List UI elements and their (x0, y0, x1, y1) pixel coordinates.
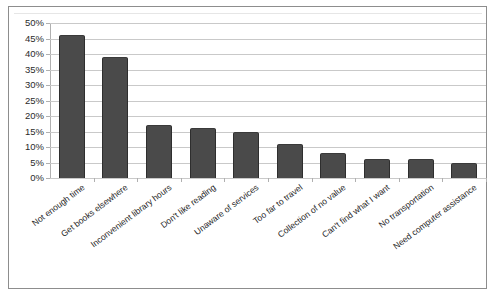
y-axis-tick-label: 0% (30, 173, 44, 183)
x-tick-mark (442, 178, 443, 182)
plot-area: 50%45%40%35%30%25%20%15%10%5%0% (50, 23, 486, 178)
gridline (50, 23, 486, 24)
gridline (50, 54, 486, 55)
y-axis-tick-label: 5% (30, 158, 44, 168)
y-axis-tick-label: 40% (25, 49, 44, 59)
y-tick-mark (46, 178, 50, 179)
chart-frame: 50%45%40%35%30%25%20%15%10%5%0% Not enou… (8, 6, 487, 289)
y-axis-tick-label: 25% (25, 96, 44, 106)
y-tick-mark (46, 163, 50, 164)
gridline (50, 39, 486, 40)
category-label: Inconvenient library hours (89, 183, 173, 249)
y-axis-tick-label: 10% (25, 142, 44, 152)
x-tick-mark (312, 178, 313, 182)
y-axis-tick-label: 15% (25, 127, 44, 137)
frame-inner-rule (14, 13, 482, 14)
y-axis-tick-label: 45% (25, 34, 44, 44)
bar (320, 153, 346, 178)
bar (102, 57, 128, 178)
y-axis-tick-label: 50% (25, 18, 44, 28)
y-axis-tick-label: 30% (25, 80, 44, 90)
y-axis-tick-label: 35% (25, 65, 44, 75)
y-axis-tick-label: 20% (25, 111, 44, 121)
y-tick-mark (46, 70, 50, 71)
x-tick-mark (137, 178, 138, 182)
bar (364, 159, 390, 178)
bar (146, 125, 172, 178)
y-tick-mark (46, 132, 50, 133)
y-tick-mark (46, 23, 50, 24)
y-tick-mark (46, 147, 50, 148)
bar (233, 132, 259, 179)
bar (277, 144, 303, 178)
bar (59, 35, 85, 178)
bar (190, 128, 216, 178)
bar (408, 159, 434, 178)
x-tick-mark (181, 178, 182, 182)
x-tick-mark (224, 178, 225, 182)
x-tick-mark (94, 178, 95, 182)
y-tick-mark (46, 101, 50, 102)
x-tick-mark (268, 178, 269, 182)
category-label: Need computer assistance (392, 183, 478, 251)
y-tick-mark (46, 54, 50, 55)
y-tick-mark (46, 39, 50, 40)
y-tick-mark (46, 116, 50, 117)
bar (451, 163, 477, 179)
y-tick-mark (46, 85, 50, 86)
x-tick-mark (399, 178, 400, 182)
x-tick-mark (355, 178, 356, 182)
x-tick-mark (486, 178, 487, 182)
